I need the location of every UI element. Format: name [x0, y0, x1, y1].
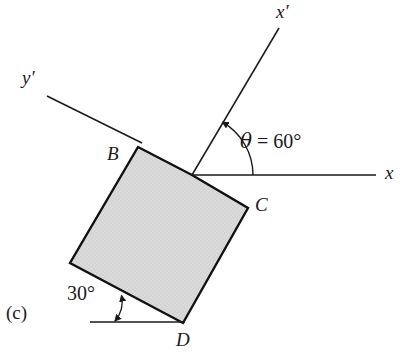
part-label: (c): [6, 303, 27, 322]
theta-angle-label: θ = 60°: [240, 131, 301, 151]
y-prime-axis-line: [47, 96, 142, 143]
vertex-label-d: D: [176, 330, 190, 349]
rotated-square: [70, 147, 248, 323]
x-prime-axis-label: x′: [276, 2, 289, 21]
vertex-label-b: B: [107, 144, 119, 163]
figure-container: x x′ y′ B C D θ = 60° 30° (c): [0, 0, 413, 362]
theta-symbol: θ: [240, 129, 252, 153]
incline-angle-arc: [115, 296, 122, 322]
y-prime-axis-label: y′: [22, 68, 35, 87]
x-prime-axis-line: [192, 28, 279, 175]
theta-value: = 60°: [252, 130, 301, 152]
incline-angle-label: 30°: [67, 283, 95, 303]
x-axis-label: x: [385, 163, 393, 182]
technical-diagram-svg: [0, 0, 413, 362]
vertex-label-c: C: [255, 195, 268, 214]
